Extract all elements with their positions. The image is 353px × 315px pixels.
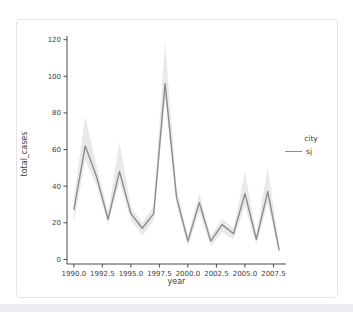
line-chart: 0204060801001201990.01992.51995.01997.52… bbox=[17, 20, 337, 297]
x-tick-label: 1992.5 bbox=[90, 270, 115, 278]
figure-card: 0204060801001201990.01992.51995.01997.52… bbox=[16, 19, 338, 298]
x-tick-label: 1990.0 bbox=[62, 270, 87, 278]
y-tick-label: 100 bbox=[48, 73, 61, 81]
x-tick-label: 2007.5 bbox=[261, 270, 286, 278]
legend: city sj bbox=[285, 134, 337, 156]
x-tick-label: 2002.5 bbox=[204, 270, 229, 278]
series-line-sj bbox=[74, 84, 279, 251]
y-tick-label: 20 bbox=[52, 219, 61, 227]
y-tick-label: 40 bbox=[52, 183, 61, 191]
legend-entry-label: sj bbox=[306, 147, 312, 156]
confidence-band bbox=[74, 41, 279, 253]
y-axis-label: total_cases bbox=[21, 124, 29, 184]
page-background-strip bbox=[0, 304, 353, 312]
y-tick-label: 0 bbox=[57, 256, 61, 264]
y-tick-label: 60 bbox=[52, 146, 61, 154]
x-axis-label: year bbox=[17, 278, 336, 286]
y-tick-label: 80 bbox=[52, 109, 61, 117]
x-tick-label: 2005.0 bbox=[233, 270, 258, 278]
legend-line-swatch bbox=[285, 151, 302, 152]
legend-title: city bbox=[285, 134, 337, 143]
x-tick-label: 1995.0 bbox=[119, 270, 144, 278]
legend-entry: sj bbox=[285, 147, 337, 156]
y-tick-label: 120 bbox=[48, 36, 61, 44]
